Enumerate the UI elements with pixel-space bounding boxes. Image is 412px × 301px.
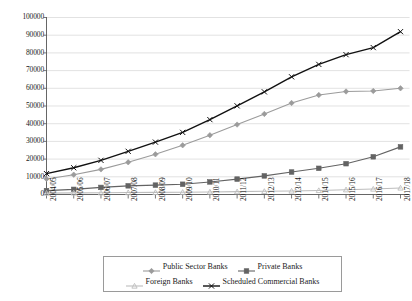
x-axis-tick-label: 2008/09: [159, 177, 167, 201]
diamond-marker-icon: [143, 262, 160, 272]
x-axis-tick-label: 2013/14: [295, 177, 303, 201]
x-axis-tick-label: 2016/17: [376, 177, 384, 201]
x-axis-tick-label: 2006/07: [104, 177, 112, 201]
legend-label: Public Sector Banks: [163, 262, 228, 271]
legend-row-2: Foreign Banks Scheduled Commercial Banks: [104, 274, 341, 289]
x-axis-tick-label: 2017/18: [404, 177, 412, 201]
triangle-marker-icon: [126, 277, 143, 287]
legend-row-1: Public Sector Banks Private Banks: [104, 259, 341, 274]
square-marker-icon: [238, 262, 255, 272]
legend-label: Foreign Banks: [146, 277, 193, 286]
legend-label: Private Banks: [258, 262, 303, 271]
legend-label: Scheduled Commercial Banks: [223, 277, 320, 286]
x-axis-tick-label: 2015/16: [349, 177, 357, 201]
legend-entry-private-banks[interactable]: Private Banks: [238, 262, 303, 272]
x-axis-tick-label: 2005/06: [77, 177, 85, 201]
x-axis-tick-label: 2009/10: [186, 177, 194, 201]
x-axis-tick-label: 2011/12: [240, 177, 248, 200]
x-axis-tick-label: 2007/08: [131, 177, 139, 201]
x-axis-tick-label: 2010/11: [213, 177, 221, 200]
legend-entry-foreign-banks[interactable]: Foreign Banks: [126, 277, 193, 287]
x-axis-tick-label: 2012/13: [268, 177, 276, 201]
x-axis-tick-label: 2004/05: [50, 177, 58, 201]
legend-entry-scheduled-commercial-banks[interactable]: Scheduled Commercial Banks: [203, 277, 320, 287]
chart-legend: Public Sector Banks Private Banks Foreig…: [103, 256, 342, 292]
cross-marker-icon: [203, 277, 220, 287]
x-axis-tick-label: 2014/15: [322, 177, 330, 201]
legend-entry-public-sector-banks[interactable]: Public Sector Banks: [143, 262, 228, 272]
